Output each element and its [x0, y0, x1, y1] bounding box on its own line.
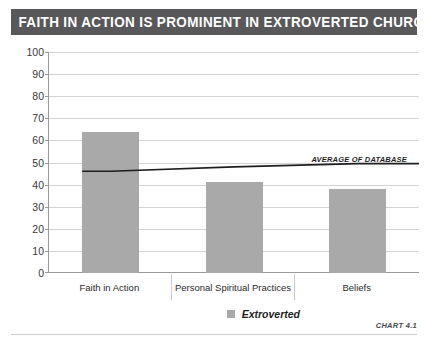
- x-axis-label-0: Faith in Action: [48, 274, 172, 300]
- y-axis-tick-80: 80: [4, 91, 44, 102]
- y-axis-tick-10: 10: [4, 246, 44, 257]
- legend-label-extroverted: Extroverted: [242, 308, 300, 320]
- y-axis-tick-labels: 0102030405060708090100: [0, 52, 44, 273]
- y-axis-tick-100: 100: [4, 47, 44, 58]
- y-axis-tick-90: 90: [4, 69, 44, 80]
- average-of-database-label: AVERAGE OF DATABASE: [312, 155, 407, 164]
- y-axis-tick-50: 50: [4, 157, 44, 168]
- legend-swatch-extroverted: [227, 310, 235, 318]
- x-axis-label-1: Personal Spiritual Practices: [172, 274, 296, 300]
- y-axis-tick-60: 60: [4, 135, 44, 146]
- chart-title-banner: FAITH IN ACTION IS PROMINENT IN EXTROVER…: [11, 9, 417, 35]
- chart-plot-wrapper: 0102030405060708090100 AVERAGE OF DATABA…: [0, 52, 428, 292]
- plot-area: AVERAGE OF DATABASE: [48, 52, 419, 273]
- y-axis-tick-20: 20: [4, 224, 44, 235]
- page-title: FAITH IN ACTION IS PROMINENT IN EXTROVER…: [11, 14, 428, 30]
- chart-legend: Extroverted: [0, 308, 300, 320]
- chart-number-label: CHART 4.1: [376, 321, 417, 330]
- x-axis-category-labels: Faith in ActionPersonal Spiritual Practi…: [48, 274, 418, 300]
- footer-divider: [11, 334, 417, 335]
- y-axis-tick-30: 30: [4, 201, 44, 212]
- y-axis-tick-0: 0: [4, 268, 44, 279]
- x-axis-label-2: Beliefs: [295, 274, 418, 300]
- y-axis-tick-70: 70: [4, 113, 44, 124]
- y-axis-tick-40: 40: [4, 179, 44, 190]
